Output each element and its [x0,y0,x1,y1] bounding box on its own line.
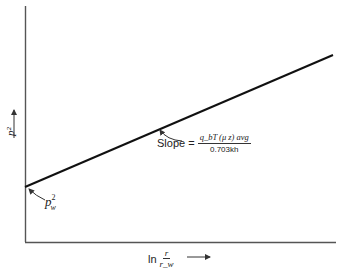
data-line [25,55,333,187]
intercept-pointer-icon [29,189,45,200]
y-axis-label-text: p² [4,127,16,136]
x-axis-label: ln r r_w [148,248,174,269]
slope-label: Slope = [157,137,195,149]
x-axis-label-denominator: r_w [160,259,174,269]
slope-numerator: q_bT (μ z) avg [198,132,251,144]
intercept-label: p2w [45,194,61,212]
slope-annotation: Slope = q_bT (μ z) avg 0.703kh [157,132,251,154]
slope-denominator: 0.703kh [210,144,238,154]
x-axis-label-fraction: r r_w [160,248,174,269]
y-axis-label: p² [4,96,20,160]
intercept-superscript: 2 [52,193,56,202]
intercept-subscript: w [51,203,56,212]
slope-fraction: q_bT (μ z) avg 0.703kh [198,132,251,154]
x-axis-label-prefix: ln [148,253,157,265]
x-axis-label-numerator: r [163,248,171,259]
